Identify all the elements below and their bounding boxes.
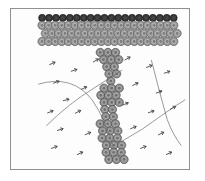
band-cell-core [93, 40, 96, 43]
arrow-mark [71, 68, 78, 73]
vertical-cell-stalk [96, 48, 128, 163]
arrow-mark [130, 125, 137, 130]
band-cell-core [100, 24, 103, 27]
band-cell-core [113, 40, 116, 43]
band-cell-core [139, 24, 142, 27]
band-cell-core [83, 32, 86, 35]
band-dark-cell [59, 14, 66, 21]
band-dark-cell [39, 14, 46, 21]
arrow-mark [132, 82, 139, 87]
stalk-cell-core [118, 101, 121, 104]
stalk-cell-core [114, 51, 117, 54]
band-dark-cell [122, 14, 129, 21]
band-cell-core [139, 40, 142, 43]
band-cell-core [74, 40, 77, 43]
band-cell-core [143, 32, 146, 35]
band-cell-core [90, 32, 93, 35]
band-dark-cell [156, 14, 163, 21]
band-cell-core [41, 40, 44, 43]
stalk-cell-core [103, 108, 106, 111]
stalk-cell-core [106, 122, 109, 125]
band-cell-core [146, 24, 149, 27]
arc-line [151, 60, 181, 145]
band-dark-cell [66, 14, 73, 21]
band-cell-core [54, 24, 57, 27]
arrow-mark [164, 70, 171, 75]
arrow-mark [85, 131, 92, 136]
arrow-mark [63, 98, 69, 102]
band-cell-core [116, 32, 119, 35]
stalk-cell-core [109, 80, 112, 83]
stalk-cell-core [99, 122, 102, 125]
stalk-cell-core [103, 101, 106, 104]
stalk-cell-core [107, 158, 110, 161]
stalk-cell-core [107, 51, 110, 54]
band-dark-cell [129, 14, 136, 21]
band-dark-cell [170, 14, 177, 21]
band-cell-core [126, 24, 129, 27]
arrow-mark [81, 85, 88, 90]
band-cell-core [146, 40, 149, 43]
stalk-cell-core [123, 158, 126, 161]
horizontal-cell-band [38, 14, 181, 45]
band-cell-core [67, 40, 70, 43]
band-cell-core [50, 32, 53, 35]
band-cell-core [172, 24, 175, 27]
band-cell-core [93, 24, 96, 27]
illustration-canvas [11, 9, 189, 169]
band-cell-core [106, 24, 109, 27]
arrow-mark [51, 145, 58, 150]
stalk-cell-core [114, 122, 117, 125]
stalk-cell-core [116, 137, 119, 140]
stalk-cell-core [101, 137, 104, 140]
band-cell-core [70, 32, 73, 35]
stalk-cell-core [112, 151, 115, 154]
band-dark-cell [101, 14, 108, 21]
arrow-mark [93, 58, 100, 64]
stalk-cell-core [110, 58, 113, 61]
stalk-cell-core [110, 101, 113, 104]
band-cell-core [153, 40, 156, 43]
stalk-cell-core [99, 94, 102, 97]
band-cell-core [103, 32, 106, 35]
arrow-mark [148, 109, 155, 114]
band-dark-cell [142, 14, 149, 21]
band-dark-cell [108, 14, 115, 21]
stalk-cell-core [113, 65, 116, 68]
band-cell-core [77, 32, 80, 35]
band-cell-core [67, 24, 70, 27]
stalk-cell-core [104, 115, 107, 118]
stalk-cell-core [118, 87, 121, 90]
stalk-cell-core [120, 144, 123, 147]
band-cell-core [54, 40, 57, 43]
stalk-cell-core [110, 87, 113, 90]
stalk-cell-core [115, 94, 118, 97]
band-dark-cell [163, 14, 170, 21]
band-cell-core [166, 24, 169, 27]
band-cell-core [80, 24, 83, 27]
band-cell-core [47, 40, 50, 43]
stalk-cell-core [109, 130, 112, 133]
arrow-mark [53, 80, 60, 85]
arrow-mark [47, 109, 54, 114]
stalk-cell-core [120, 151, 123, 154]
figure-container [0, 0, 205, 181]
band-cell-core [60, 24, 63, 27]
band-cell-core [47, 24, 50, 27]
band-dark-cell [87, 14, 94, 21]
band-dark-cell [73, 14, 80, 21]
band-dark-cell [94, 14, 101, 21]
stalk-cell-core [112, 115, 115, 118]
stalk-cell-core [108, 72, 111, 75]
stalk-cell-core [111, 108, 114, 111]
arrow-mark [57, 127, 64, 132]
band-cell-core [110, 32, 113, 35]
band-cell-core [80, 40, 83, 43]
arrow-mark [140, 145, 147, 150]
band-cell-core [156, 32, 159, 35]
band-dark-cell [52, 14, 59, 21]
band-cell-core [74, 24, 77, 27]
band-cell-core [149, 32, 152, 35]
band-cell-core [172, 40, 175, 43]
band-dark-cell [149, 14, 156, 21]
